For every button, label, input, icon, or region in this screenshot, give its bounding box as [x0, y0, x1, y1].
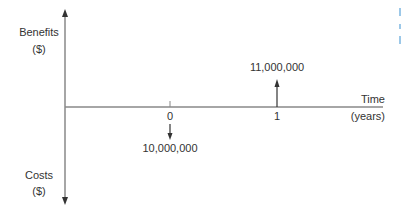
time-axis-unit-label: (years)	[330, 110, 385, 123]
cash-flow-arrow-cost	[168, 124, 173, 140]
arrow-down-icon	[168, 133, 173, 140]
benefits-unit-label: ($)	[14, 43, 64, 56]
costs-label: Costs	[14, 169, 64, 182]
tick-label-0: 0	[160, 110, 180, 123]
tick-label-1: 1	[267, 110, 287, 123]
arrow-down-icon	[62, 197, 68, 205]
costs-unit-label: ($)	[14, 185, 64, 198]
cost-amount-label: 10,000,000	[130, 142, 210, 155]
arrow-up-icon	[275, 79, 280, 87]
benefits-label: Benefits	[14, 26, 64, 39]
benefit-amount-label: 11,000,000	[237, 61, 317, 74]
cash-flow-diagram: Benefits ($) Costs ($) Time (years) 0 1 …	[0, 0, 403, 214]
arrow-up-icon	[62, 9, 68, 17]
time-axis-label: Time	[330, 93, 385, 106]
edge-artifact	[399, 8, 402, 48]
cash-flow-arrow-benefit	[275, 79, 280, 107]
